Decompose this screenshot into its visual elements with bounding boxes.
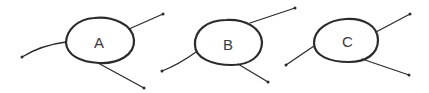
node-a-edge-bottom	[98, 63, 144, 88]
node-b: B	[161, 7, 297, 84]
node-c-edge-top-right	[376, 14, 410, 32]
node-a-edge-in	[22, 42, 66, 57]
node-a-edge-top-right-endpoint	[162, 13, 165, 16]
node-b-edge-bottom-left	[162, 52, 196, 71]
node-b-edge-top-right-endpoint	[294, 7, 297, 10]
node-a-edge-in-endpoint	[21, 56, 24, 59]
node-c-edge-bottom-right	[362, 59, 409, 75]
node-c-edge-left-endpoint	[285, 64, 288, 67]
node-c-edge-left	[286, 46, 314, 65]
node-c: C	[285, 13, 412, 77]
diagram-svg: A B C	[0, 0, 429, 93]
node-b-edge-bottom-endpoint	[267, 81, 270, 84]
node-b-edge-top-right	[250, 8, 295, 23]
node-b-edge-bottom-left-endpoint	[161, 70, 164, 73]
node-c-label: C	[342, 33, 353, 50]
diagram-canvas: A B C	[0, 0, 429, 93]
node-a-edge-bottom-endpoint	[143, 87, 146, 90]
node-a: A	[21, 13, 165, 90]
node-a-label: A	[94, 34, 104, 51]
node-b-label: B	[223, 36, 233, 53]
node-b-edge-bottom	[238, 64, 268, 82]
node-a-edge-top-right	[129, 14, 163, 29]
node-c-edge-top-right-endpoint	[409, 13, 412, 16]
node-c-edge-bottom-right-endpoint	[408, 74, 411, 77]
